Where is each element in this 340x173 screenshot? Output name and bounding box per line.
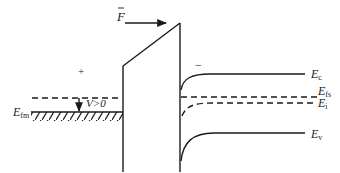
mos-band-diagram: F + V>0 Efm − Ec Efs Ei	[0, 0, 340, 173]
field-label: F	[116, 9, 126, 24]
semiconductor-charge-sign: −	[195, 58, 202, 72]
electric-field: F	[116, 8, 166, 24]
label-Ev: Ev	[310, 127, 322, 142]
band-Ec	[181, 74, 305, 90]
metal-fermi-label: Efm	[12, 105, 30, 120]
metal-charge-sign: +	[78, 65, 84, 77]
metal-region: + V>0 Efm	[12, 65, 123, 121]
bias-label: V>0	[86, 97, 106, 109]
oxide-barrier	[123, 23, 180, 172]
semiconductor-region: − Ec Efs Ei Ev	[181, 58, 331, 161]
label-Ec: Ec	[310, 67, 322, 82]
band-Ev	[181, 133, 305, 161]
band-Ei	[182, 103, 316, 116]
metal-hatching	[31, 112, 123, 121]
